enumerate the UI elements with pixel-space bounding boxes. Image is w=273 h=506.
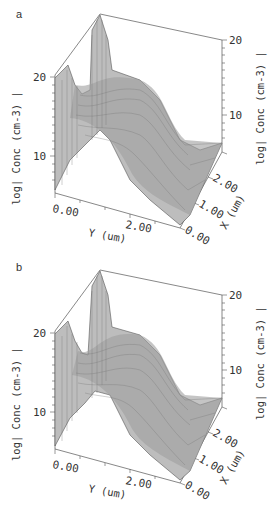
z-tick-20-left: 20: [33, 327, 46, 340]
z-axis-title-left: log| Conc (cm-3) |: [10, 347, 23, 461]
surface-plot: 20 10 20 10 0.00 2.00 Y (um) 0.00 1.00 2…: [0, 253, 273, 506]
x-tick-0: 0.00: [183, 478, 212, 503]
z-tick-10-right: 10: [229, 109, 242, 122]
y-tick-0: 0.00: [51, 202, 79, 219]
panel-a: a: [0, 0, 273, 253]
z-axis-title-left: log| Conc (cm-3) |: [10, 91, 23, 205]
y-axis-title: Y (um): [88, 482, 127, 500]
y-tick-2: 2.00: [124, 218, 152, 235]
y-tick-2: 2.00: [124, 474, 152, 491]
z-tick-20-right: 20: [229, 34, 242, 47]
z-axis-title-right: log| Conc (cm-3) |: [254, 51, 267, 165]
x-tick-0: 0.00: [183, 223, 212, 248]
surface-mesh: [55, 15, 222, 225]
z-tick-20-left: 20: [33, 71, 46, 84]
panel-b: b: [0, 253, 273, 506]
z-tick-20-right: 20: [229, 289, 242, 302]
z-tick-10-left: 10: [33, 150, 46, 163]
z-tick-10-right: 10: [229, 364, 242, 377]
y-axis-title: Y (um): [88, 226, 127, 244]
y-tick-0: 0.00: [51, 458, 79, 475]
surface-mesh: [55, 271, 222, 480]
z-axis-title-right: log| Conc (cm-3) |: [254, 306, 267, 420]
surface-plot: 20 10 20 10 0.00 2.00 Y (um) 0.00 1.00 2…: [0, 0, 273, 253]
z-tick-10-left: 10: [33, 406, 46, 419]
